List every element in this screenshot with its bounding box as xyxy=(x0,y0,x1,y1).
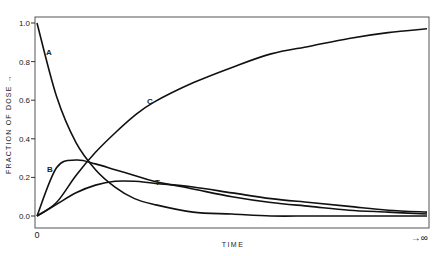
curve-c xyxy=(37,29,427,216)
curve-label-a: A xyxy=(46,48,52,57)
y-axis-label: FRACTION OF DOSE → xyxy=(5,74,12,174)
curve-label-t: T xyxy=(155,178,160,187)
y-axis: 0.00.20.40.60.81.0 xyxy=(19,19,35,221)
y-tick-label: 0.4 xyxy=(19,135,31,144)
x-end-label: →∞ xyxy=(411,232,428,243)
y-tick-label: 0.2 xyxy=(19,173,31,182)
curve-label-c: C xyxy=(147,97,153,106)
y-tick-label: 1.0 xyxy=(19,19,31,28)
curve-a xyxy=(37,23,427,216)
y-tick-label: 0.8 xyxy=(19,58,31,67)
curves xyxy=(37,23,427,216)
curve-label-b: B xyxy=(47,165,53,174)
chart: 0.00.20.40.60.81.0 ABTC 0 TIME →∞ FRACTI… xyxy=(0,0,444,256)
y-tick-label: 0.6 xyxy=(19,96,31,105)
x-start-label: 0 xyxy=(34,230,39,240)
x-axis-label: TIME xyxy=(222,241,245,248)
y-tick-label: 0.0 xyxy=(19,212,31,221)
